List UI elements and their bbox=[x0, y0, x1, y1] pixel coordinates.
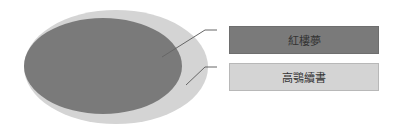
label-outer-text: 高鶚續書 bbox=[282, 69, 326, 85]
label-inner-text: 紅樓夢 bbox=[288, 32, 321, 48]
label-box-outer: 高鶚續書 bbox=[229, 63, 379, 91]
label-box-inner: 紅樓夢 bbox=[229, 26, 379, 54]
inner-ellipse bbox=[24, 18, 182, 114]
